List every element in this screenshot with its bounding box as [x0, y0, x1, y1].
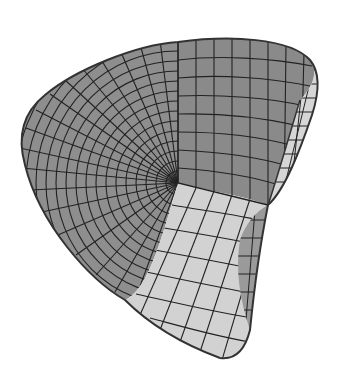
surface-render	[0, 0, 340, 378]
surface-figure	[0, 0, 340, 378]
